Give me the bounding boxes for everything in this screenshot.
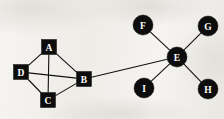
graph-node-c[interactable]: C bbox=[41, 93, 56, 108]
graph-edge-d-b bbox=[29, 73, 77, 78]
graph-node-h[interactable]: H bbox=[198, 79, 218, 99]
graph-edge-a-b bbox=[57, 54, 77, 72]
node-label-c: C bbox=[45, 96, 52, 106]
graph-edge-e-g bbox=[184, 33, 201, 50]
node-label-b: B bbox=[81, 75, 88, 85]
node-label-h: H bbox=[204, 85, 212, 95]
node-label-a: A bbox=[46, 43, 53, 53]
node-layer: ABCDEFGHI bbox=[14, 15, 219, 108]
graph-diagram-canvas: ABCDEFGHI bbox=[0, 0, 224, 119]
graph-node-d[interactable]: D bbox=[14, 65, 29, 80]
node-label-i: I bbox=[142, 84, 146, 94]
graph-edge-a-c bbox=[48, 55, 49, 93]
node-label-g: G bbox=[204, 22, 212, 32]
graph-edge-e-i bbox=[151, 64, 169, 81]
graph-edge-b-e bbox=[92, 59, 168, 77]
graph-edge-e-h bbox=[184, 64, 201, 82]
graph-node-f[interactable]: F bbox=[133, 15, 153, 35]
graph-svg: ABCDEFGHI bbox=[0, 0, 224, 119]
graph-edge-e-f bbox=[150, 32, 169, 50]
graph-node-g[interactable]: G bbox=[198, 16, 218, 36]
graph-edge-d-c bbox=[28, 80, 41, 93]
graph-edge-a-d bbox=[29, 54, 42, 66]
graph-node-e[interactable]: E bbox=[167, 47, 187, 67]
graph-node-a[interactable]: A bbox=[42, 40, 57, 55]
node-label-e: E bbox=[174, 53, 180, 63]
graph-node-i[interactable]: I bbox=[134, 78, 154, 98]
node-label-f: F bbox=[140, 21, 146, 31]
node-label-d: D bbox=[18, 68, 25, 78]
graph-node-b[interactable]: B bbox=[77, 72, 92, 87]
graph-edge-c-b bbox=[56, 83, 77, 95]
